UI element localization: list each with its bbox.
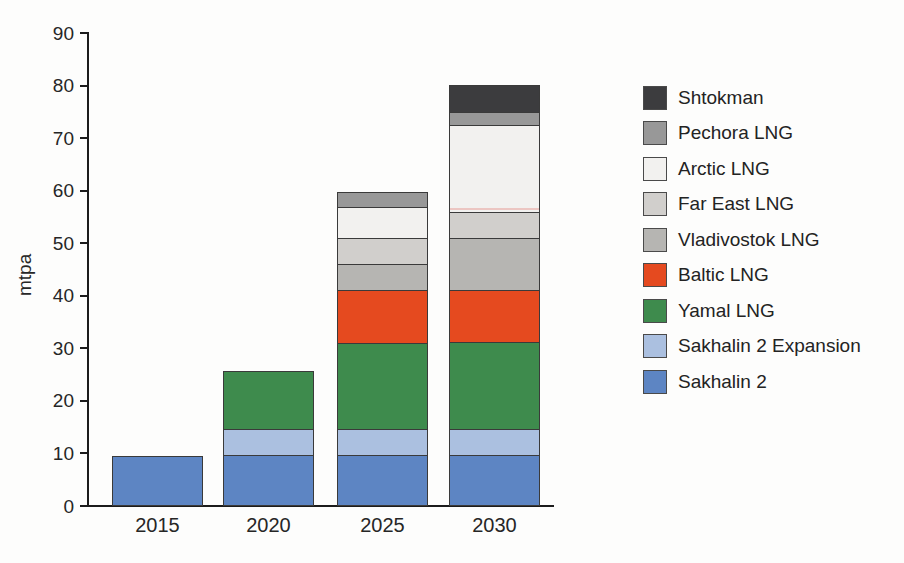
legend-swatch bbox=[643, 370, 667, 394]
legend-swatch bbox=[643, 157, 667, 181]
legend-swatch bbox=[643, 263, 667, 287]
y-tick bbox=[80, 32, 88, 34]
legend-label: Sakhalin 2 bbox=[678, 371, 767, 393]
bar-segment-vladivostok-lng bbox=[450, 238, 539, 290]
x-tick-label-2025: 2025 bbox=[337, 514, 428, 537]
legend-label: Yamal LNG bbox=[678, 300, 775, 322]
bar-segment-sakhalin-2 bbox=[224, 455, 313, 505]
y-tick bbox=[80, 452, 88, 454]
y-tick bbox=[80, 295, 88, 297]
bar-2020 bbox=[223, 371, 314, 506]
legend-swatch bbox=[643, 334, 667, 358]
legend-label: Sakhalin 2 Expansion bbox=[678, 335, 861, 357]
bar-segment-vladivostok-lng bbox=[338, 264, 427, 290]
y-tick-label: 10 bbox=[28, 444, 74, 463]
bar-segment-far-east-lng bbox=[338, 238, 427, 264]
y-tick-label: 90 bbox=[28, 24, 74, 43]
legend-item-sakhalin-2-expansion: Sakhalin 2 Expansion bbox=[643, 329, 861, 365]
bar-segment-sakhalin-2-expansion bbox=[224, 429, 313, 455]
y-tick-label: 30 bbox=[28, 339, 74, 358]
bar-segment-shtokman bbox=[450, 86, 539, 112]
bar-segment-sakhalin-2-expansion bbox=[338, 429, 427, 455]
bar-segment-baltic-lng bbox=[450, 290, 539, 342]
legend-item-far-east-lng: Far East LNG bbox=[643, 187, 861, 223]
y-tick bbox=[80, 505, 88, 507]
x-tick-label-2020: 2020 bbox=[223, 514, 314, 537]
legend-swatch bbox=[643, 299, 667, 323]
y-tick bbox=[80, 85, 88, 87]
legend: ShtokmanPechora LNGArctic LNGFar East LN… bbox=[643, 80, 861, 400]
bar-segment-sakhalin-2 bbox=[113, 457, 202, 505]
legend-item-pechora-lng: Pechora LNG bbox=[643, 116, 861, 152]
legend-item-shtokman: Shtokman bbox=[643, 80, 861, 116]
legend-swatch bbox=[643, 121, 667, 145]
y-tick bbox=[80, 347, 88, 349]
bar-segment-far-east-lng bbox=[450, 212, 539, 238]
bar-segment-yamal-lng bbox=[338, 343, 427, 429]
legend-label: Far East LNG bbox=[678, 193, 794, 215]
x-tick-label-2030: 2030 bbox=[449, 514, 540, 537]
legend-label: Shtokman bbox=[678, 87, 764, 109]
y-tick bbox=[80, 190, 88, 192]
bar-segment-pechora-lng bbox=[338, 193, 427, 207]
bar-segment-yamal-lng bbox=[224, 372, 313, 429]
y-tick bbox=[80, 137, 88, 139]
bar-2030 bbox=[449, 85, 540, 506]
legend-label: Vladivostok LNG bbox=[678, 229, 820, 251]
bar-2015 bbox=[112, 456, 203, 506]
x-tick-label-2015: 2015 bbox=[112, 514, 203, 537]
legend-item-arctic-lng: Arctic LNG bbox=[643, 151, 861, 187]
legend-item-baltic-lng: Baltic LNG bbox=[643, 258, 861, 294]
y-tick bbox=[80, 242, 88, 244]
y-tick-label: 20 bbox=[28, 391, 74, 410]
bar-segment-baltic-lng bbox=[338, 290, 427, 342]
y-tick-label: 50 bbox=[28, 234, 74, 253]
bar-segment-sakhalin-2-expansion bbox=[450, 429, 539, 455]
bar-segment-pechora-lng bbox=[450, 112, 539, 126]
y-tick-label: 70 bbox=[28, 129, 74, 148]
legend-label: Pechora LNG bbox=[678, 122, 793, 144]
legend-item-yamal-lng: Yamal LNG bbox=[643, 293, 861, 329]
y-tick-label: 60 bbox=[28, 181, 74, 200]
legend-item-vladivostok-lng: Vladivostok LNG bbox=[643, 222, 861, 258]
legend-swatch bbox=[643, 86, 667, 110]
legend-label: Arctic LNG bbox=[678, 158, 770, 180]
plot-area bbox=[88, 33, 553, 506]
bar-2025 bbox=[337, 192, 428, 506]
y-tick-label: 80 bbox=[28, 76, 74, 95]
bar-segment-sakhalin-2 bbox=[450, 455, 539, 505]
legend-swatch bbox=[643, 192, 667, 216]
bar-segment-sakhalin-2 bbox=[338, 455, 427, 505]
legend-label: Baltic LNG bbox=[678, 264, 769, 286]
legend-swatch bbox=[643, 228, 667, 252]
y-tick-label: 40 bbox=[28, 286, 74, 305]
y-tick bbox=[80, 400, 88, 402]
bar-segment-yamal-lng bbox=[450, 342, 539, 428]
y-tick-label: 0 bbox=[28, 497, 74, 516]
legend-item-sakhalin-2: Sakhalin 2 bbox=[643, 364, 861, 400]
stacked-bar-chart: mtpa 0102030405060708090 201520202025203… bbox=[0, 0, 904, 563]
bar-segment-arctic-lng bbox=[450, 125, 539, 211]
bar-segment-arctic-lng bbox=[338, 207, 427, 238]
